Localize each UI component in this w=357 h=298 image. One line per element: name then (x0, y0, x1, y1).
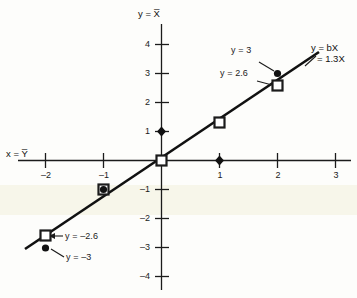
y-tick-label-1: 1 (136, 126, 150, 136)
annotation-lower-circle: y = –3 (66, 252, 91, 262)
annotation-upper-square: y = 2.6 (220, 68, 248, 78)
leader-line-upper-circle (259, 62, 274, 71)
x-tick-label-2: 2 (268, 170, 288, 180)
y-tick-label-2: 2 (136, 97, 150, 107)
x-tick-label-1: 1 (210, 170, 230, 180)
y-tick-label-3: 3 (136, 68, 150, 78)
y-tick-label--4: –4 (132, 271, 150, 281)
annotation-upper-circle: y = 3 (231, 45, 251, 55)
y-tick-label--1: –1 (132, 184, 150, 194)
y-tick-label-4: 4 (136, 39, 150, 49)
y-axis-title: y = X̅ (138, 8, 160, 19)
leader-line-lower-circle (51, 249, 64, 257)
plot-area (0, 0, 357, 298)
regression-equation-label-line2: = 1.3X (317, 53, 345, 64)
regression-line-figure: y = X̅ x = Y̅ y = bX = 1.3X –2 –1 1 2 3 … (0, 0, 357, 298)
x-tick-label--2: –2 (36, 170, 56, 180)
x-tick-label--1: –1 (94, 170, 114, 180)
annotation-lower-square: y = –2.6 (65, 231, 98, 241)
y-tick-label--3: –3 (132, 242, 150, 252)
y-tick-label--2: –2 (132, 213, 150, 223)
leader-line-upper-square (257, 81, 272, 85)
regression-equation-label-line1: y = bX (311, 42, 338, 53)
x-tick-label-3: 3 (326, 170, 346, 180)
x-axis-title: x = Y̅ (6, 148, 28, 159)
